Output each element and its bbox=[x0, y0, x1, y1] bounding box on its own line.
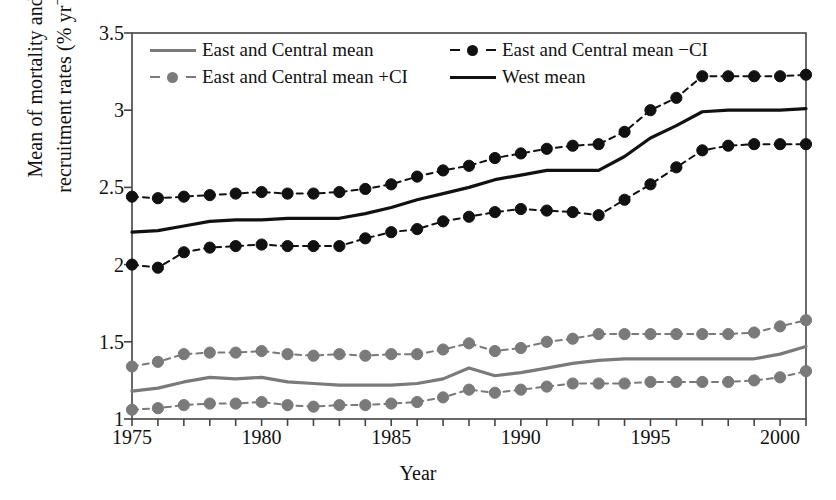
data-point bbox=[671, 376, 682, 387]
data-point bbox=[515, 203, 526, 214]
data-point bbox=[645, 179, 656, 190]
data-point bbox=[723, 328, 734, 339]
data-point bbox=[619, 194, 630, 205]
series-2 bbox=[126, 69, 811, 204]
series-1 bbox=[126, 315, 811, 373]
chart-figure: Mean of mortality and recruitment rates … bbox=[0, 0, 836, 500]
data-point bbox=[204, 242, 215, 253]
data-point bbox=[697, 328, 708, 339]
data-point bbox=[386, 227, 397, 238]
data-point bbox=[178, 400, 189, 411]
y-tick-label: 3.5 bbox=[80, 22, 124, 45]
series-5 bbox=[126, 366, 811, 416]
data-point bbox=[412, 223, 423, 234]
data-point bbox=[489, 207, 500, 218]
data-point bbox=[282, 188, 293, 199]
x-tick-label: 1980 bbox=[242, 426, 282, 449]
x-tick-label: 1990 bbox=[501, 426, 541, 449]
plot-area bbox=[0, 0, 836, 500]
data-point bbox=[256, 345, 267, 356]
data-point bbox=[282, 240, 293, 251]
data-point bbox=[593, 139, 604, 150]
data-point bbox=[230, 240, 241, 251]
data-point bbox=[437, 344, 448, 355]
data-point bbox=[437, 392, 448, 403]
data-point bbox=[126, 361, 137, 372]
data-point bbox=[463, 384, 474, 395]
data-point bbox=[412, 171, 423, 182]
data-point bbox=[723, 376, 734, 387]
data-point bbox=[282, 349, 293, 360]
data-point bbox=[723, 140, 734, 151]
data-point bbox=[671, 328, 682, 339]
data-point bbox=[697, 376, 708, 387]
data-point bbox=[204, 190, 215, 201]
data-point bbox=[645, 328, 656, 339]
data-point bbox=[437, 216, 448, 227]
data-point bbox=[671, 92, 682, 103]
data-point bbox=[463, 338, 474, 349]
y-axis-tick-labels: 11.522.533.5 bbox=[38, 0, 124, 500]
y-tick-label: 3 bbox=[80, 99, 124, 122]
x-tick-label: 2000 bbox=[760, 426, 800, 449]
data-point bbox=[723, 71, 734, 82]
data-point bbox=[567, 333, 578, 344]
data-point bbox=[774, 71, 785, 82]
data-point bbox=[126, 259, 137, 270]
data-point bbox=[515, 148, 526, 159]
data-point bbox=[567, 207, 578, 218]
data-point bbox=[489, 387, 500, 398]
x-tick-label: 1985 bbox=[371, 426, 411, 449]
data-point bbox=[437, 165, 448, 176]
data-point bbox=[541, 205, 552, 216]
data-point bbox=[178, 191, 189, 202]
y-tick-label: 1.5 bbox=[80, 330, 124, 353]
data-point bbox=[230, 188, 241, 199]
data-point bbox=[256, 239, 267, 250]
data-point bbox=[800, 315, 811, 326]
data-point bbox=[489, 152, 500, 163]
data-point bbox=[334, 400, 345, 411]
data-point bbox=[386, 179, 397, 190]
data-point bbox=[308, 240, 319, 251]
data-point bbox=[541, 336, 552, 347]
data-point bbox=[515, 384, 526, 395]
data-point bbox=[256, 186, 267, 197]
data-point bbox=[800, 139, 811, 150]
plot-frame bbox=[132, 33, 806, 419]
data-point bbox=[126, 191, 137, 202]
x-tick-label: 1995 bbox=[630, 426, 670, 449]
data-point bbox=[152, 356, 163, 367]
data-point bbox=[152, 193, 163, 204]
data-point bbox=[619, 328, 630, 339]
data-point bbox=[489, 345, 500, 356]
y-tick-label: 2.5 bbox=[80, 176, 124, 199]
data-point bbox=[593, 328, 604, 339]
data-point bbox=[126, 404, 137, 415]
data-point bbox=[541, 143, 552, 154]
data-point bbox=[178, 349, 189, 360]
data-point bbox=[515, 342, 526, 353]
data-point bbox=[386, 398, 397, 409]
data-point bbox=[541, 381, 552, 392]
data-point bbox=[800, 69, 811, 80]
data-point bbox=[749, 139, 760, 150]
data-point bbox=[178, 247, 189, 258]
data-point bbox=[308, 188, 319, 199]
data-point bbox=[749, 375, 760, 386]
data-point bbox=[230, 347, 241, 358]
data-point bbox=[256, 396, 267, 407]
data-point bbox=[593, 210, 604, 221]
data-point bbox=[463, 160, 474, 171]
data-point bbox=[567, 378, 578, 389]
data-point bbox=[204, 347, 215, 358]
data-point bbox=[360, 233, 371, 244]
x-tick-label: 1975 bbox=[112, 426, 152, 449]
y-tick-label: 2 bbox=[80, 253, 124, 276]
data-point bbox=[619, 126, 630, 137]
data-point bbox=[800, 366, 811, 377]
data-point bbox=[463, 211, 474, 222]
data-point bbox=[774, 321, 785, 332]
data-point bbox=[308, 350, 319, 361]
data-point bbox=[360, 183, 371, 194]
